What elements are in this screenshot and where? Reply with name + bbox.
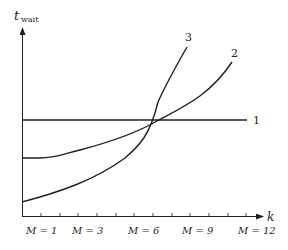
tick-label-m9: M = 9: [181, 225, 214, 236]
x-axis-label: k: [267, 210, 274, 224]
x-axis-ticks: [41, 213, 246, 216]
curve-3: [22, 47, 187, 202]
curve-2: [22, 62, 232, 158]
y-axis-label-subscript: wait: [21, 15, 39, 24]
chart: t wait k 1 2 3 M = 1 M = 3 M = 6 M = 9 M…: [0, 0, 288, 250]
curve-1-label: 1: [253, 114, 260, 127]
tick-label-m1: M = 1: [25, 225, 57, 236]
curve-3-label: 3: [185, 31, 192, 44]
tick-label-m3: M = 3: [71, 225, 103, 236]
tick-label-m12: M = 12: [237, 225, 276, 236]
y-axis-label: t: [14, 8, 20, 23]
tick-label-m6: M = 6: [127, 225, 160, 236]
curve-2-label: 2: [231, 47, 238, 60]
